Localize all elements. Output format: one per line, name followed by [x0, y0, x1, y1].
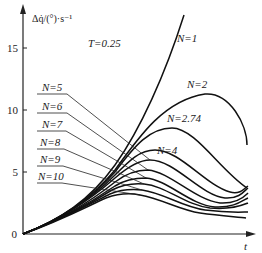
label-n2: N=2 — [186, 78, 208, 90]
label-n274: N=2.74 — [166, 112, 202, 124]
label-n4: N=4 — [156, 144, 178, 156]
label-n1: N=1 — [176, 32, 197, 44]
y-axis-label: Δq̇/(°)·s⁻¹ — [32, 13, 72, 25]
label-n10: N=10 — [37, 170, 64, 182]
tick-label-0: 0 — [12, 228, 18, 240]
curve-n10 — [23, 194, 246, 234]
label-n5: N=5 — [41, 81, 63, 93]
tick-label-10: 10 — [7, 104, 19, 116]
tick-label-15: 15 — [7, 42, 19, 54]
tick-label-5: 5 — [13, 166, 19, 178]
label-n9: N=9 — [39, 153, 61, 165]
chart-figure: 15 10 5 0 Δq̇/(°)·s⁻¹ t T=0.25 N=1 N=2 N… — [0, 0, 262, 253]
curve-n9 — [23, 189, 248, 234]
x-axis-label: t — [244, 240, 248, 252]
x-axis-arrow-icon — [246, 231, 256, 237]
label-n8: N=8 — [39, 136, 61, 148]
curve-n8 — [23, 184, 248, 234]
curve-n7 — [23, 178, 248, 234]
y-axis-arrow-icon — [20, 4, 26, 14]
label-n6: N=6 — [41, 100, 63, 112]
label-n7: N=7 — [41, 118, 63, 130]
parameter-annotation: T=0.25 — [88, 37, 121, 49]
